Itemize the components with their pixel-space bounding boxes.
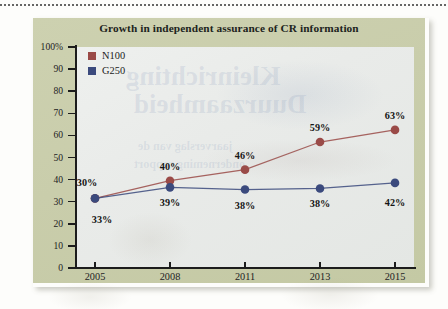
y-tick-label: 60 <box>23 129 63 140</box>
x-tick <box>169 262 171 268</box>
y-tick <box>68 46 75 48</box>
data-label-n100-2005: 30% <box>67 177 107 188</box>
watermark-line-3: jaarverslag van de <box>138 139 233 154</box>
y-tick <box>68 245 75 247</box>
x-tick-label: 2015 <box>372 271 418 282</box>
y-tick-label: 10 <box>23 240 63 251</box>
y-tick-label: 20 <box>23 218 63 229</box>
y-tick-label: 80 <box>23 85 63 96</box>
x-tick-label: 2005 <box>72 271 118 282</box>
y-tick <box>68 267 75 269</box>
legend-swatch-icon <box>88 67 96 75</box>
y-tick <box>68 90 75 92</box>
y-axis-line <box>75 45 77 269</box>
y-tick-label: 50 <box>23 152 63 163</box>
legend-swatch-icon <box>88 52 96 60</box>
y-tick-label: 70 <box>23 107 63 118</box>
y-tick <box>68 201 75 203</box>
y-tick-label: 40 <box>23 174 63 185</box>
data-label-n100-2015: 63% <box>375 110 415 121</box>
y-tick <box>68 113 75 115</box>
chart-title: Growth in independent assurance of CR in… <box>33 22 425 34</box>
x-tick <box>244 262 246 268</box>
x-tick-label: 2008 <box>147 271 193 282</box>
data-label-g250-2008: 39% <box>150 197 190 208</box>
watermark-line-2: Duurzaamheid <box>134 89 307 120</box>
data-label-g250-2011: 38% <box>225 200 265 211</box>
page-top-dotted-rule <box>0 4 448 6</box>
legend-item-n100[interactable]: N100 <box>88 50 125 61</box>
y-tick <box>68 68 75 70</box>
x-tick <box>319 262 321 268</box>
legend-label: N100 <box>102 50 125 61</box>
y-tick <box>68 157 75 159</box>
data-label-g250-2005: 33% <box>82 214 122 225</box>
x-tick-label: 2011 <box>222 271 268 282</box>
y-tick-label: 30 <box>23 196 63 207</box>
y-tick <box>68 135 75 137</box>
x-tick <box>394 262 396 268</box>
data-label-n100-2008: 40% <box>150 161 190 172</box>
y-tick <box>68 223 75 225</box>
y-tick-label: 90 <box>23 63 63 74</box>
data-label-n100-2011: 46% <box>225 150 265 161</box>
legend-label: G250 <box>102 65 125 76</box>
watermark-line-1: Kleinrichting <box>126 61 281 92</box>
y-tick-label: 100% <box>23 41 63 52</box>
y-tick-label: 0 <box>23 262 63 273</box>
chart-legend: N100G250 <box>88 50 125 80</box>
x-tick <box>94 262 96 268</box>
legend-item-g250[interactable]: G250 <box>88 65 125 76</box>
x-tick-label: 2013 <box>297 271 343 282</box>
data-label-g250-2015: 42% <box>375 197 415 208</box>
data-label-n100-2013: 59% <box>300 122 340 133</box>
data-label-g250-2013: 38% <box>300 198 340 209</box>
